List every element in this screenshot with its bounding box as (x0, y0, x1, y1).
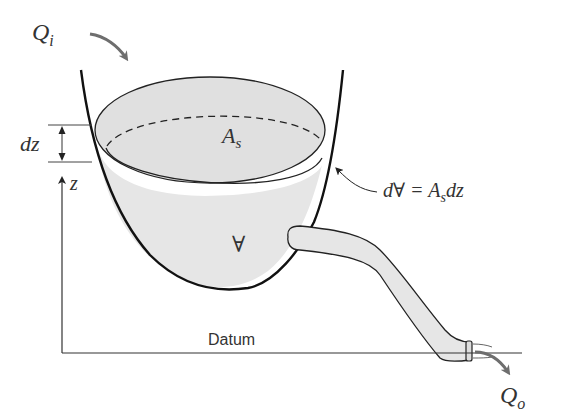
outflow-label: Qo (500, 382, 525, 412)
volume-equation: d∀ = Asdz (383, 179, 464, 205)
outlet-pipe (288, 226, 492, 361)
dv-leader-line (338, 170, 377, 192)
reservoir-diagram: Qi dz z As ∀ d∀ = Asdz Datum Qo (0, 0, 576, 420)
inflow-arrow (90, 34, 126, 58)
inflow-label: Qi (32, 19, 54, 49)
volume-label: ∀ (232, 232, 246, 257)
datum-label: Datum (208, 331, 255, 348)
z-axis-label: z (69, 172, 78, 194)
dz-label: dz (20, 131, 40, 156)
nozzle-ring (466, 341, 472, 361)
outflow-arrow (475, 352, 508, 372)
dz-dimension (48, 125, 92, 162)
